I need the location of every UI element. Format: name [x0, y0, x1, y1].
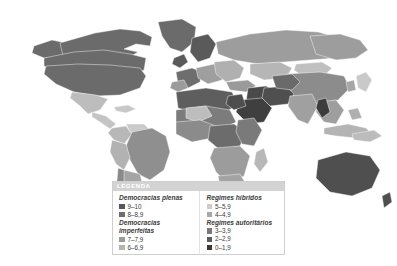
- legend-item: 8–8,9: [119, 211, 199, 219]
- legend-item: 4–4,9: [207, 211, 285, 219]
- legend-range-label: 3–3,9: [215, 227, 231, 235]
- legend-swatch: [119, 245, 125, 251]
- legend-range-label: 2–2,9: [215, 235, 231, 243]
- legend-item: 6–6,9: [119, 244, 199, 252]
- legend-item: 3–3,9: [207, 227, 285, 235]
- legend-swatch: [207, 228, 213, 234]
- legend-range-label: 4–4,9: [215, 211, 231, 219]
- legend-range-label: 8–8,9: [128, 211, 144, 219]
- legend-swatch: [207, 204, 213, 210]
- legend-column-right: Regimes híbridos 5–5,9 4–4,9 Regimes aut…: [199, 191, 285, 255]
- legend-range-label: 7–7,9: [128, 236, 144, 244]
- legend-item: 2–2,9: [207, 235, 285, 243]
- map-legend: LEGENDA Democracias plenas 9–10 8–8,9 De…: [112, 181, 285, 255]
- legend-swatch: [207, 245, 213, 251]
- legend-item: 0–1,9: [207, 244, 285, 252]
- legend-item: 9–10: [119, 203, 199, 211]
- legend-swatch: [207, 237, 213, 243]
- legend-range-label: 9–10: [128, 203, 142, 211]
- legend-item: 7–7,9: [119, 236, 199, 244]
- legend-group-title-flawed-democracies-line1: Democracias: [119, 219, 199, 226]
- legend-range-label: 6–6,9: [128, 244, 144, 252]
- legend-swatch: [119, 212, 125, 218]
- legend-group-title-authoritarian-regimes: Regimes autoritários: [207, 219, 285, 227]
- legend-group-title-flawed-democracies-line2: imperfeitas: [119, 227, 199, 234]
- legend-swatch: [119, 237, 125, 243]
- legend-swatch: [119, 204, 125, 210]
- legend-column-left: Democracias plenas 9–10 8–8,9 Democracia…: [113, 191, 199, 255]
- legend-swatch: [207, 212, 213, 218]
- region-korea: [346, 80, 356, 92]
- legend-range-label: 0–1,9: [215, 244, 231, 252]
- legend-group-title-full-democracies: Democracias plenas: [119, 194, 199, 202]
- legend-title: LEGENDA: [113, 182, 284, 191]
- legend-group-title-hybrid-regimes: Regimes híbridos: [207, 194, 285, 202]
- legend-item: 5–5,9: [207, 203, 285, 211]
- legend-range-label: 5–5,9: [215, 203, 231, 211]
